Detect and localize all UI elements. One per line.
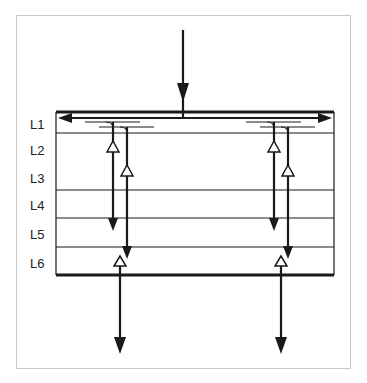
- open-triangle-up-icon: [121, 165, 133, 176]
- arrowhead-down-icon: [108, 218, 118, 231]
- arrowhead-right-icon: [318, 113, 332, 123]
- open-triangle-up-icon: [107, 141, 119, 152]
- open-triangle-up-icon: [282, 165, 294, 176]
- arrowhead-down-icon: [122, 246, 132, 259]
- open-triangle-up-icon: [268, 141, 280, 152]
- arrowhead-down-icon: [177, 83, 189, 102]
- open-triangle-up-icon: [114, 256, 126, 266]
- arrowhead-left-icon: [58, 113, 72, 123]
- open-triangle-up-icon: [275, 256, 287, 266]
- arrowhead-down-icon: [275, 337, 287, 354]
- arrowhead-down-icon: [114, 337, 126, 354]
- arrowhead-down-icon: [283, 246, 293, 259]
- arrowhead-down-icon: [269, 218, 279, 231]
- layer-diagram: [0, 0, 367, 383]
